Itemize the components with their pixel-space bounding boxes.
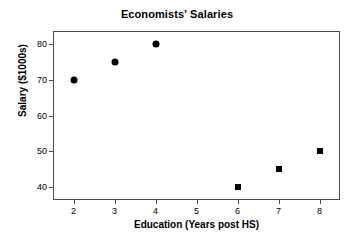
data-point-circle: [70, 76, 77, 83]
plot-area: [53, 31, 340, 200]
data-point-square: [276, 166, 282, 172]
data-point-circle: [152, 40, 159, 47]
x-axis-tick-mark: [74, 200, 75, 204]
x-axis-tick-label: 6: [235, 206, 240, 216]
y-axis-tick-mark: [49, 44, 53, 45]
x-axis-tick-mark: [197, 200, 198, 204]
chart-title: Economists' Salaries: [0, 8, 354, 20]
y-axis-tick-label: 60: [37, 111, 47, 121]
data-point-circle: [111, 58, 118, 65]
x-axis-tick-label: 7: [276, 206, 281, 216]
y-axis-tick-label: 40: [37, 182, 47, 192]
x-axis-tick-labels: 2345678: [0, 206, 354, 220]
y-axis-tick-mark: [49, 187, 53, 188]
x-axis-tick-label: 2: [71, 206, 76, 216]
x-axis-title: Education (Years post HS): [53, 219, 340, 230]
x-axis-tick-label: 5: [194, 206, 199, 216]
x-axis-tick-mark: [279, 200, 280, 204]
y-axis-tick-mark: [49, 80, 53, 81]
x-axis-tick-mark: [156, 200, 157, 204]
x-axis-tick-label: 4: [153, 206, 158, 216]
data-point-square: [317, 148, 323, 154]
x-axis-tick-mark: [238, 200, 239, 204]
x-axis-tick-mark: [320, 200, 321, 204]
x-axis-tick-label: 8: [317, 206, 322, 216]
y-axis-tick-mark: [49, 151, 53, 152]
x-axis-tick-label: 3: [112, 206, 117, 216]
data-point-square: [235, 184, 241, 190]
y-axis-title: Salary ($1000s): [17, 16, 28, 146]
y-axis-tick-label: 80: [37, 39, 47, 49]
y-axis-tick-mark: [49, 116, 53, 117]
y-axis-tick-label: 70: [37, 75, 47, 85]
scatter-chart-figure: Economists' Salaries 4050607080 2345678 …: [0, 0, 354, 239]
y-axis-tick-label: 50: [37, 146, 47, 156]
x-axis-tick-mark: [115, 200, 116, 204]
